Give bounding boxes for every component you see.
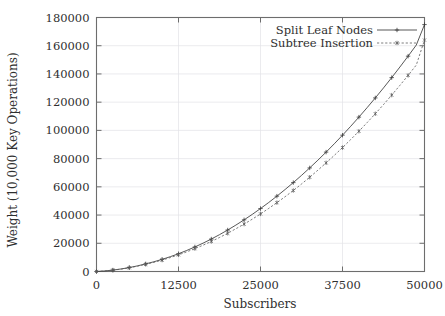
y-tick-label: 60000 xyxy=(53,180,90,194)
y-tick-label: 80000 xyxy=(53,152,90,166)
y-tick-label: 20000 xyxy=(53,236,90,250)
x-tick-label: 0 xyxy=(93,278,100,292)
y-tick-label: 40000 xyxy=(53,208,90,222)
y-tick-label: 160000 xyxy=(46,39,90,53)
x-tick-label: 50000 xyxy=(406,278,443,292)
legend-label-1: Split Leaf Nodes xyxy=(276,23,373,37)
y-tick-label: 100000 xyxy=(46,123,90,137)
y-tick-label: 140000 xyxy=(46,67,90,81)
y-tick-label: 180000 xyxy=(46,11,90,25)
legend-label-2: Subtree Insertion xyxy=(270,36,373,50)
x-tick-label: 12500 xyxy=(160,278,197,292)
y-tick-label: 120000 xyxy=(46,95,90,109)
y-tick-label: 0 xyxy=(82,265,89,279)
chart-figure: 0200004000060000800001000001200001400001… xyxy=(0,0,445,316)
line-chart: 0200004000060000800001000001200001400001… xyxy=(0,0,445,316)
y-axis-title: Weight (10,000 Key Operations) xyxy=(6,52,20,247)
x-tick-label: 25000 xyxy=(242,278,279,292)
x-tick-label: 37500 xyxy=(324,278,361,292)
x-axis-title: Subscribers xyxy=(224,297,297,311)
